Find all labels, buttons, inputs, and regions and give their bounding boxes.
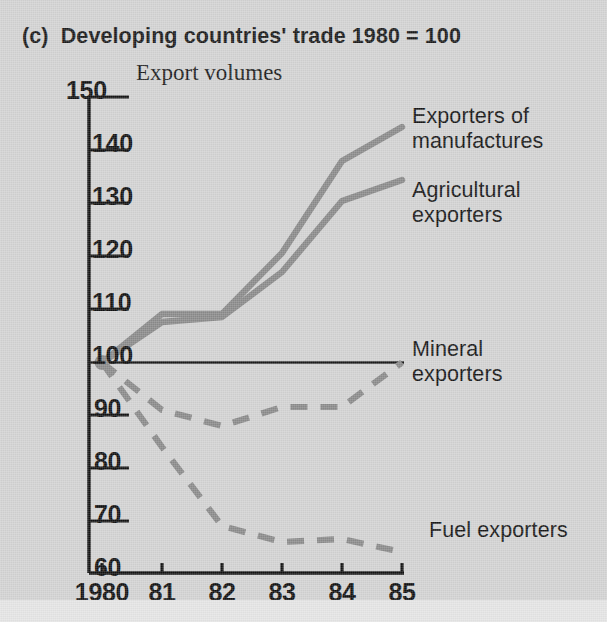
series-label-line-1: Agricultural bbox=[412, 178, 521, 203]
y-tick-label-100: 100 bbox=[92, 341, 133, 370]
series-label-mineral-exporters: Mineral exporters bbox=[412, 337, 503, 387]
series-label-line-1: Fuel exporters bbox=[429, 518, 568, 543]
y-tick-label-120: 120 bbox=[92, 235, 133, 264]
series-label-line-1: Exporters of bbox=[412, 104, 543, 129]
y-tick-label-140: 140 bbox=[92, 129, 133, 158]
chart-figure: (c) Developing countries' trade 1980 = 1… bbox=[0, 0, 607, 622]
series-line-mineral-exporters bbox=[102, 363, 402, 427]
series-label-fuel-exporters: Fuel exporters bbox=[429, 518, 568, 543]
y-tick-label-80: 80 bbox=[94, 447, 121, 476]
series-label-agricultural-exporters: Agricultural exporters bbox=[412, 178, 521, 228]
series-label-line-2: exporters bbox=[412, 203, 521, 228]
series-line-agricultural-exporters bbox=[102, 180, 402, 363]
y-tick-label-70: 70 bbox=[94, 500, 121, 529]
series-label-exporters-of-manufactures: Exporters of manufactures bbox=[412, 104, 543, 154]
y-tick-label-130: 130 bbox=[92, 182, 133, 211]
series-label-line-1: Mineral bbox=[412, 337, 503, 362]
y-tick-label-90: 90 bbox=[94, 394, 121, 423]
series-label-line-2: exporters bbox=[412, 362, 503, 387]
series-line-exporters-of-manufactures bbox=[102, 127, 402, 363]
series-label-line-2: manufactures bbox=[412, 129, 543, 154]
y-tick-label-150: 150 bbox=[66, 76, 107, 105]
page-bottom-strip bbox=[0, 600, 607, 622]
y-tick-label-110: 110 bbox=[92, 288, 131, 317]
series-line-fuel-exporters bbox=[102, 363, 402, 553]
